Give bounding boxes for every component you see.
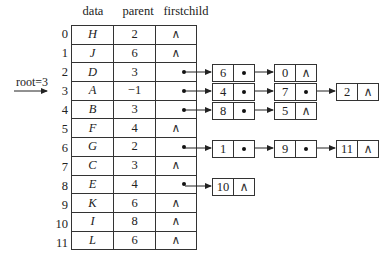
child-node: 6 bbox=[212, 64, 255, 82]
pointer-dot-icon bbox=[242, 109, 246, 113]
child-node: 7 bbox=[274, 83, 317, 101]
node-index: 5 bbox=[275, 103, 295, 119]
child-node: 0 ∧ bbox=[274, 64, 317, 82]
node-index: 4 bbox=[213, 84, 233, 100]
node-index: 0 bbox=[275, 65, 295, 81]
null-icon: ∧ bbox=[357, 84, 378, 100]
pointer-arrows bbox=[0, 0, 388, 265]
child-node: 10 ∧ bbox=[212, 178, 255, 196]
node-index: 9 bbox=[275, 141, 295, 157]
node-next bbox=[233, 65, 254, 81]
child-node: 11 ∧ bbox=[336, 140, 379, 158]
pointer-dot-icon bbox=[242, 147, 246, 151]
pointer-dot-icon bbox=[304, 90, 308, 94]
node-next bbox=[295, 84, 316, 100]
node-next bbox=[233, 84, 254, 100]
node-next bbox=[233, 141, 254, 157]
child-node: 2 ∧ bbox=[336, 83, 379, 101]
node-index: 1 bbox=[213, 141, 233, 157]
pointer-dot-icon bbox=[242, 71, 246, 75]
child-node: 4 bbox=[212, 83, 255, 101]
node-index: 10 bbox=[213, 179, 233, 195]
null-icon: ∧ bbox=[233, 179, 254, 195]
node-index: 7 bbox=[275, 84, 295, 100]
child-node: 9 bbox=[274, 140, 317, 158]
node-index: 8 bbox=[213, 103, 233, 119]
child-node: 8 bbox=[212, 102, 255, 120]
node-next bbox=[233, 103, 254, 119]
node-index: 11 bbox=[337, 141, 357, 157]
node-next bbox=[295, 141, 316, 157]
node-index: 2 bbox=[337, 84, 357, 100]
null-icon: ∧ bbox=[295, 103, 316, 119]
pointer-dot-icon bbox=[242, 90, 246, 94]
child-node: 1 bbox=[212, 140, 255, 158]
pointer-dot-icon bbox=[304, 147, 308, 151]
null-icon: ∧ bbox=[357, 141, 378, 157]
node-index: 6 bbox=[213, 65, 233, 81]
null-icon: ∧ bbox=[295, 65, 316, 81]
child-node: 5 ∧ bbox=[274, 102, 317, 120]
